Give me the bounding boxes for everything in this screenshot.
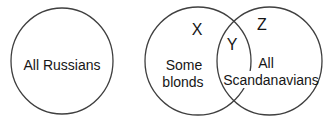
all-scandanavians-line1: All	[258, 55, 274, 71]
some-blonds-line2: blonds	[162, 74, 203, 90]
some-blonds-line1: Some	[166, 57, 203, 73]
venn-diagram: All Russians X Y Z Some blonds All Scand…	[0, 0, 327, 121]
venn-diagram-canvas: All Russians X Y Z Some blonds All Scand…	[0, 0, 327, 121]
all-scandanavians-line2: Scandanavians	[223, 72, 319, 88]
z-letter: Z	[257, 16, 267, 33]
all-russians-label: All Russians	[23, 57, 100, 73]
x-letter: X	[192, 21, 203, 38]
y-letter: Y	[227, 36, 238, 53]
